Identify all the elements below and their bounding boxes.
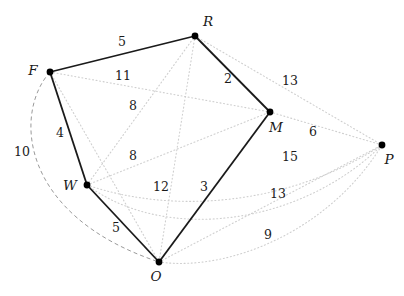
curved-edge-F-O-dashed (31, 72, 159, 262)
dotted-edge-M-P (270, 112, 382, 145)
graph-canvas (0, 0, 404, 296)
edge-weight-F-O-dashed: 10 (14, 146, 30, 159)
edge-weight-M-P: 6 (309, 126, 317, 139)
vertex-O[interactable] (156, 259, 163, 266)
edge-weight-F-O: 8 (129, 100, 137, 113)
edge-weight-F-M: 11 (115, 70, 131, 83)
vertex-F[interactable] (47, 69, 54, 76)
edge-weight-R-P: 13 (282, 75, 298, 88)
edge-weight-W-R: 8 (129, 150, 137, 163)
vertex-label-M: M (269, 121, 283, 135)
vertex-M[interactable] (267, 109, 274, 116)
dotted-chords-group (50, 36, 382, 262)
edge-weight-F-R: 5 (118, 36, 126, 49)
edge-weight-F-W: 4 (56, 127, 64, 140)
curved-edge-O-P-9 (159, 145, 382, 263)
vertex-P[interactable] (379, 142, 386, 149)
edge-weight-W-O: 5 (112, 222, 120, 235)
graph-figure: F R M P W O 5 4 2 5 3 11 8 8 12 13 6 15 … (0, 0, 404, 296)
vertex-label-W: W (63, 179, 77, 193)
dotted-edge-F-O (50, 72, 159, 262)
edge-weight-W-P-13: 13 (270, 188, 286, 201)
edge-weight-M-O: 3 (200, 181, 208, 194)
solid-edges-group (50, 36, 270, 262)
dotted-edge-R-P (195, 36, 382, 145)
vertices-group (47, 33, 386, 266)
edge-weight-W-P-15: 15 (282, 151, 298, 164)
vertex-label-P: P (384, 153, 393, 167)
vertex-label-R: R (203, 15, 213, 29)
edge-weight-W-M: 12 (153, 181, 169, 194)
vertex-label-F: F (28, 64, 37, 78)
edge-weight-R-M: 2 (224, 73, 232, 86)
solid-edge-O-W (87, 185, 159, 262)
vertex-label-O: O (150, 270, 161, 284)
dotted-edge-O-P-base (159, 145, 382, 262)
edge-weight-O-P-9: 9 (264, 229, 272, 242)
vertex-R[interactable] (192, 33, 199, 40)
vertex-W[interactable] (84, 182, 91, 189)
